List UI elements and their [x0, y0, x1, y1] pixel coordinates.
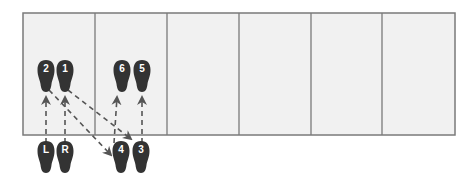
- court-grid: [23, 13, 455, 135]
- footprint-4: 4: [113, 141, 130, 173]
- footprint-label: 6: [119, 63, 125, 74]
- footprint-label: 1: [62, 63, 68, 74]
- footprint-label: 5: [139, 63, 145, 74]
- footprint-label: 2: [43, 63, 49, 74]
- footprint-label: 4: [118, 144, 124, 155]
- footprint-label: 3: [138, 144, 144, 155]
- footprint-label: L: [43, 144, 49, 155]
- footprint-l: L: [38, 141, 55, 173]
- footprint-label: R: [61, 144, 69, 155]
- footprint-3: 3: [133, 141, 150, 173]
- footwork-diagram: LR123456: [0, 0, 473, 176]
- footprint-r: R: [57, 141, 74, 173]
